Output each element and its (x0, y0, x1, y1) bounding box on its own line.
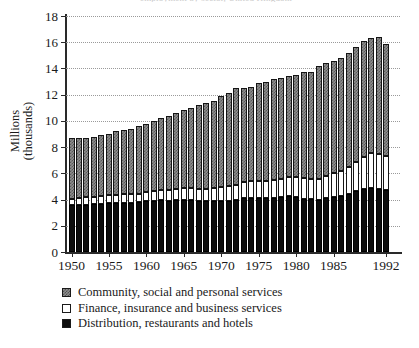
bar-segment-community (136, 126, 142, 193)
bar-segment-community (248, 87, 254, 181)
x-tick-1980 (296, 252, 297, 257)
x-tick-1950 (72, 252, 73, 257)
x-tick-1960 (146, 252, 147, 257)
bar-segment-community (98, 135, 104, 196)
bar-1960 (143, 16, 149, 252)
bar-segment-distribution (69, 205, 75, 252)
x-tick-1965 (184, 252, 185, 257)
bar-segment-finance (316, 179, 322, 200)
y-tick-label-14: 14 (32, 62, 58, 75)
bar-segment-community (383, 44, 389, 156)
bar-segment-finance (331, 173, 337, 197)
bar-segment-distribution (151, 201, 157, 252)
bar-1976 (263, 16, 269, 252)
bar-segment-distribution (203, 201, 209, 252)
bar-segment-community (166, 116, 172, 190)
bar-1951 (76, 16, 82, 252)
bar-segment-distribution (271, 198, 277, 252)
bar-segment-distribution (136, 202, 142, 252)
bar-1952 (83, 16, 89, 252)
bar-segment-finance (226, 186, 232, 200)
bar-1972 (233, 16, 239, 252)
bar-segment-finance (323, 176, 329, 198)
bar-segment-community (301, 72, 307, 178)
bar-segment-community (271, 79, 277, 180)
bar-segment-community (196, 105, 202, 188)
bar-segment-community (233, 88, 239, 185)
bar-segment-community (151, 121, 157, 191)
bar-1975 (256, 16, 262, 252)
bar-segment-finance (361, 157, 367, 190)
bar-1963 (166, 16, 172, 252)
bar-1988 (353, 16, 359, 252)
x-tick-1992 (386, 252, 387, 257)
bar-segment-distribution (293, 197, 299, 252)
bar-1958 (128, 16, 134, 252)
bar-segment-finance (76, 198, 82, 205)
bar-segment-community (323, 63, 329, 176)
bar-segment-community (203, 103, 209, 189)
bar-segment-finance (143, 192, 149, 201)
bar-segment-finance (383, 156, 389, 190)
bar-segment-community (293, 75, 299, 177)
bar-segment-finance (376, 154, 382, 188)
bar-segment-finance (218, 187, 224, 201)
bar-1957 (121, 16, 127, 252)
bar-segment-finance (113, 195, 119, 203)
bar-segment-distribution (226, 201, 232, 252)
bar-1992 (383, 16, 389, 252)
bar-1971 (226, 16, 232, 252)
bar-segment-community (263, 82, 269, 181)
bar-1977 (271, 16, 277, 252)
bar-segment-finance (353, 162, 359, 192)
bar-segment-finance (203, 189, 209, 202)
bar-segment-distribution (278, 197, 284, 252)
bar-segment-distribution (211, 201, 217, 252)
bar-1978 (278, 16, 284, 252)
bar-segment-finance (278, 179, 284, 197)
bar-segment-finance (128, 194, 134, 203)
bar-1961 (151, 16, 157, 252)
bar-segment-distribution (173, 200, 179, 252)
bar-segment-community (353, 47, 359, 161)
bar-segment-distribution (83, 205, 89, 252)
bar-segment-distribution (346, 194, 352, 252)
bar-segment-finance (211, 188, 217, 201)
bar-segment-community (316, 66, 322, 179)
bar-segment-distribution (256, 198, 262, 252)
bar-segment-distribution (188, 200, 194, 252)
legend-item-community[interactable]: Community, social and personal services (62, 285, 282, 301)
bar-segment-distribution (98, 204, 104, 252)
bar-segment-finance (181, 188, 187, 200)
bar-segment-community (218, 96, 224, 187)
bar-segment-finance (241, 182, 247, 198)
bar-1955 (106, 16, 112, 252)
bar-segment-community (106, 134, 112, 195)
bar-1984 (323, 16, 329, 252)
bar-segment-distribution (301, 199, 307, 252)
bar-segment-distribution (331, 197, 337, 252)
bar-segment-distribution (76, 205, 82, 252)
bar-segment-community (338, 58, 344, 171)
bar-segment-finance (166, 190, 172, 201)
bar-1990 (368, 16, 374, 252)
bar-segment-distribution (308, 199, 314, 252)
bar-segment-distribution (218, 201, 224, 252)
y-tick-label-16: 16 (32, 36, 58, 49)
bar-segment-community (83, 138, 89, 197)
bar-segment-finance (293, 177, 299, 197)
bar-segment-distribution (158, 200, 164, 252)
legend-item-finance[interactable]: Finance, insurance and business services (62, 301, 282, 317)
bar-segment-community (278, 78, 284, 179)
bar-segment-community (128, 129, 134, 195)
bar-1950 (69, 16, 75, 252)
bar-segment-distribution (196, 201, 202, 252)
bar-segment-distribution (233, 200, 239, 252)
bar-segment-distribution (323, 198, 329, 252)
bar-segment-community (361, 41, 367, 157)
bar-segment-finance (301, 178, 307, 198)
x-tick-1985 (334, 252, 335, 257)
legend-item-distribution[interactable]: Distribution, restaurants and hotels (62, 316, 282, 332)
bar-segment-distribution (338, 196, 344, 252)
bar-segment-distribution (316, 200, 322, 252)
